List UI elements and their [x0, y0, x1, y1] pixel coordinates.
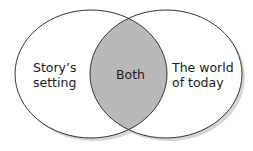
right-label-line-2: of today [172, 75, 234, 90]
left-label-line-2: setting [33, 75, 77, 90]
intersection-label-text: Both [116, 67, 145, 82]
intersection-label: Both [116, 67, 145, 82]
right-label-line-1: The world [172, 60, 234, 75]
right-set-label: The world of today [172, 60, 234, 90]
left-label-line-1: Story’s [33, 60, 77, 75]
left-set-label: Story’s setting [33, 60, 77, 90]
